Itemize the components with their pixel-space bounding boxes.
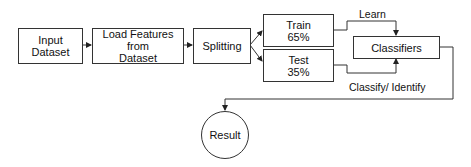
node-load-features-label-2: Dataset <box>119 52 157 64</box>
node-input-dataset: Input Dataset <box>18 28 83 64</box>
arrow-split-to-test <box>250 45 262 61</box>
node-test-percent: 35% <box>287 66 309 78</box>
node-result: Result <box>201 111 249 159</box>
node-input-dataset-label: Input Dataset <box>19 34 82 58</box>
node-train-label: Train <box>286 19 311 31</box>
node-splitting-label: Splitting <box>202 40 241 52</box>
node-classifiers: Classifiers <box>353 36 440 59</box>
arrow-split-to-train <box>250 31 262 45</box>
node-splitting: Splitting <box>193 28 251 64</box>
node-train: Train 65% <box>263 14 334 47</box>
edge-label-classify-identify: Classify/ Identify <box>349 81 425 93</box>
node-classifiers-label: Classifiers <box>371 42 422 54</box>
node-load-features: Load Features from Dataset <box>92 28 184 64</box>
node-test-label: Test <box>288 54 308 66</box>
node-result-label: Result <box>209 129 240 141</box>
edge-label-learn: Learn <box>359 8 386 20</box>
node-train-percent: 65% <box>287 31 309 43</box>
node-test: Test 35% <box>263 49 334 82</box>
arrow-train-to-classifiers <box>334 21 396 35</box>
arrow-test-to-classifiers <box>334 59 396 73</box>
node-load-features-label-1: Load Features from <box>93 28 183 52</box>
